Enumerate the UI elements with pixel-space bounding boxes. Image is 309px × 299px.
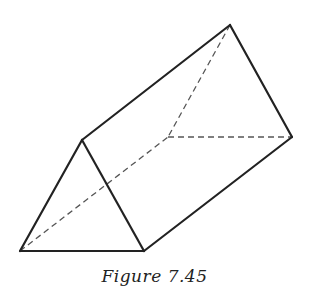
- triangular-prism-diagram: [0, 0, 309, 299]
- edge-back-apex-to-back-bottom-right: [230, 25, 292, 137]
- hidden-edge-back-apex-to-back-bottom-left-hidden: [168, 25, 230, 137]
- edge-front-apex-to-back-apex: [82, 25, 230, 140]
- hidden-edge-front-bottom-left-to-back-bottom-left-hidden: [20, 137, 168, 251]
- hidden-edges: [20, 25, 292, 251]
- edge-front-bottom-right-to-back-bottom-right: [144, 137, 292, 251]
- visible-edges: [20, 25, 292, 251]
- edge-front-apex-to-front-bottom-left: [20, 140, 82, 251]
- figure-caption: Figure 7.45: [0, 266, 309, 286]
